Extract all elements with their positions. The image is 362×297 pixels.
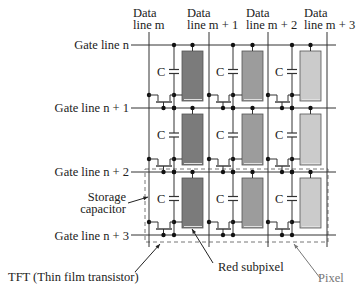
capacitor-label: C xyxy=(275,129,283,141)
junction-dot xyxy=(231,106,235,110)
data-line-m1-label: Data line m + 1 xyxy=(187,7,238,31)
subpixel-red xyxy=(182,114,203,165)
capacitor-label: C xyxy=(216,129,224,141)
junction-dot xyxy=(172,170,176,174)
junction-dot xyxy=(221,170,225,174)
subpixel-green xyxy=(242,51,263,101)
junction-dot xyxy=(172,106,176,110)
junction-dot xyxy=(290,43,294,47)
junction-dot xyxy=(250,106,254,110)
subpixel-green xyxy=(242,114,263,165)
capacitor-label: C xyxy=(216,193,224,205)
junction-dot xyxy=(172,43,176,47)
junction-dot xyxy=(290,233,294,237)
red-subpixel-label: Red subpixel xyxy=(218,261,284,273)
capacitor-label: C xyxy=(157,66,165,78)
junction-dot xyxy=(280,106,284,110)
junction-dot xyxy=(161,170,165,174)
gate-line-n3-label: Gate line n + 3 xyxy=(55,230,129,242)
junction-dot xyxy=(161,233,165,237)
subpixel-blue xyxy=(300,114,321,165)
junction-dot xyxy=(221,233,225,237)
gate-line-n-label: Gate line n xyxy=(74,39,129,51)
capacitor-label: C xyxy=(157,193,165,205)
storage-capacitor-arrow-head xyxy=(143,196,148,200)
subpixel-green xyxy=(242,178,263,228)
capacitor-label: C xyxy=(157,129,165,141)
capacitor-label: C xyxy=(275,66,283,78)
junction-dot xyxy=(290,170,294,174)
pixel-label: Pixel xyxy=(318,272,344,284)
subpixel-red xyxy=(182,51,203,101)
subpixel-blue xyxy=(300,178,321,228)
junction-dot xyxy=(280,170,284,174)
junction-dot xyxy=(161,106,165,110)
tft-array-diagram xyxy=(0,0,362,297)
gate-line-n1-label: Gate line n + 1 xyxy=(55,102,129,114)
red-subpixel-arrow xyxy=(192,229,213,263)
gate-line-n2-label: Gate line n + 2 xyxy=(55,166,129,178)
junction-dot xyxy=(221,106,225,110)
junction-dot xyxy=(308,170,312,174)
data-line-m3-label: Data line m + 3 xyxy=(304,7,355,31)
junction-dot xyxy=(172,233,176,237)
storage-capacitor-label: Storage capacitor xyxy=(80,191,126,215)
junction-dot xyxy=(308,106,312,110)
tft-label: TFT (Thin film transistor) xyxy=(8,271,139,283)
pixel-arrow xyxy=(294,244,320,278)
junction-dot xyxy=(231,233,235,237)
junction-dot xyxy=(190,43,194,47)
subpixel-blue xyxy=(300,51,321,101)
junction-dot xyxy=(250,170,254,174)
junction-dot xyxy=(190,106,194,110)
junction-dot xyxy=(250,43,254,47)
junction-dot xyxy=(190,170,194,174)
capacitor-label: C xyxy=(275,193,283,205)
junction-dot xyxy=(231,170,235,174)
tft-arrow xyxy=(135,244,160,272)
junction-dot xyxy=(308,43,312,47)
data-line-m2-label: Data line m + 2 xyxy=(246,7,297,31)
junction-dot xyxy=(290,106,294,110)
junction-dot xyxy=(280,233,284,237)
junction-dot xyxy=(231,43,235,47)
subpixel-red xyxy=(182,178,203,228)
data-line-m-label: Data line m xyxy=(133,7,165,31)
capacitor-label: C xyxy=(216,66,224,78)
